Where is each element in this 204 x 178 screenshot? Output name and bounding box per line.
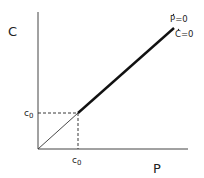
c-dot-label: C=0 xyxy=(175,29,193,39)
thin-segment xyxy=(38,113,78,149)
x-tick-c0: c0 xyxy=(72,155,81,167)
y-axis-label: C xyxy=(8,24,17,39)
p-dot-label: P=0 xyxy=(170,14,188,24)
phase-diagram: C P c0 c0 P=0 C=0 xyxy=(0,0,204,178)
x-axis-label: P xyxy=(153,161,161,176)
svg-text:C=0: C=0 xyxy=(175,29,193,39)
stationary-locus xyxy=(78,28,174,113)
y-tick-c0: c0 xyxy=(24,108,33,120)
svg-text:P=0: P=0 xyxy=(170,14,188,24)
